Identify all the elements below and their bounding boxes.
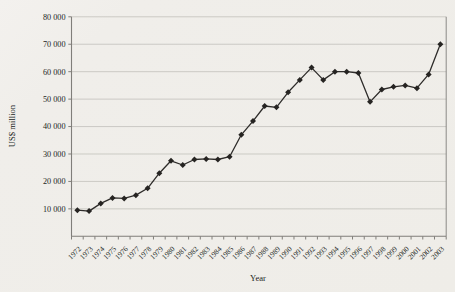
data-point-marker [133, 192, 139, 198]
data-point-marker [437, 41, 443, 47]
data-point-marker [121, 195, 127, 201]
y-tick-label: 40 000 [43, 122, 66, 131]
y-tick-label: 50 000 [43, 95, 66, 104]
data-point-marker [391, 84, 397, 90]
x-axis-tick-labels: 1972197319741975197619771978197919801981… [66, 244, 446, 261]
line-chart: 10 00020 00030 00040 00050 00060 00070 0… [0, 0, 455, 292]
data-point-marker [344, 69, 350, 75]
y-tick-label: 30 000 [43, 150, 66, 159]
y-axis-tick-labels: 10 00020 00030 00040 00050 00060 00070 0… [43, 13, 66, 214]
data-point-marker [227, 154, 233, 160]
x-tick-label: 2003 [429, 244, 446, 261]
y-tick-label: 60 000 [43, 68, 66, 77]
data-point-marker [191, 156, 197, 162]
data-point-marker [180, 162, 186, 168]
data-point-marker [74, 207, 80, 213]
data-point-marker [355, 70, 361, 76]
series-line [77, 44, 440, 211]
data-point-marker [109, 195, 115, 201]
x-axis-title: Year [250, 273, 266, 283]
axes [68, 17, 446, 240]
y-tick-label: 70 000 [43, 40, 66, 49]
data-point-marker [203, 156, 209, 162]
data-point-marker [215, 156, 221, 162]
data-series [74, 41, 443, 214]
data-point-marker [402, 82, 408, 88]
y-tick-label: 10 000 [43, 205, 66, 214]
y-tick-label: 80 000 [43, 13, 66, 22]
scanned-page: 10 00020 00030 00040 00050 00060 00070 0… [0, 0, 455, 292]
y-axis-title: US$ million [7, 104, 17, 147]
y-tick-label: 20 000 [43, 177, 66, 186]
